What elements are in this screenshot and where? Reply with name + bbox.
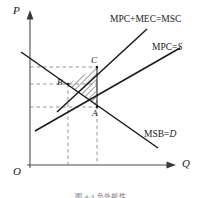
axis-horizontal-Q (27, 162, 176, 169)
curve-msc (57, 29, 147, 112)
point-label-B: B (57, 78, 63, 87)
figure-caption: 图 4-3 负外部性 (0, 191, 201, 198)
p-axis-label: P (13, 5, 20, 16)
q-axis-label: Q (182, 158, 190, 169)
origin-label: O (13, 166, 21, 177)
point-C-dot (96, 66, 98, 68)
curve-label-msb: MSB=D (144, 130, 176, 140)
curve-label-mpc: MPC=S (152, 43, 182, 53)
point-label-C: C (91, 56, 97, 65)
deadweight-loss-region (68, 67, 97, 107)
curve-msb (21, 52, 158, 148)
axis-vertical-P (27, 10, 34, 168)
point-B-dot (67, 83, 69, 85)
curve-mpc (35, 48, 180, 131)
point-label-A: A (92, 109, 98, 118)
externality-diagram (0, 0, 201, 198)
q-axis-arrow (167, 162, 177, 169)
curve-label-msc: MPC+MEC=MSC (110, 15, 181, 25)
p-axis-arrow (27, 10, 34, 20)
